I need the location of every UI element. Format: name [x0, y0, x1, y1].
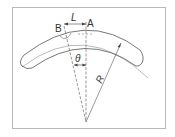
point-b-label: B — [55, 23, 62, 34]
arc-length-label: L — [71, 12, 77, 23]
angle-arrow-left — [74, 64, 78, 67]
arc-length-arrow-right — [82, 23, 86, 26]
radial-line-b — [64, 26, 86, 122]
radius-label: R — [93, 74, 106, 85]
tube-right-cap — [136, 50, 143, 66]
angle-label: θ — [75, 53, 81, 64]
radius-arrowhead — [118, 43, 122, 48]
arc-length-arrow-left — [64, 23, 68, 26]
bend-diagram: B A L θ R — [0, 0, 175, 137]
point-a-label: A — [87, 18, 94, 29]
angle-arrow-right — [83, 64, 87, 67]
